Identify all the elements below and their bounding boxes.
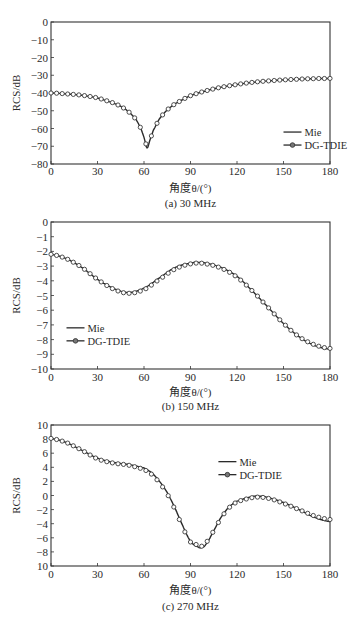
data-marker: [267, 79, 271, 83]
data-marker: [311, 77, 315, 81]
y-tick-label: −2: [36, 504, 48, 516]
x-tick-label: 90: [185, 165, 197, 177]
data-marker: [71, 260, 75, 264]
y-axis-label: RCS/dB: [10, 477, 22, 514]
plot-frame: [51, 222, 330, 369]
y-tick-label: −10: [31, 363, 49, 375]
data-marker: [121, 462, 125, 466]
x-axis-label: 角度θ/(°): [169, 583, 211, 597]
y-tick-label: −20: [31, 52, 49, 64]
data-marker: [278, 78, 282, 82]
y-tick-label: −3: [36, 260, 48, 272]
legend-mie-label: Mie: [88, 323, 105, 334]
rcs-chart-150mhz: 0−1−2−3−4−5−6−7−8−9−100306090120150180RC…: [0, 214, 352, 416]
data-marker: [121, 291, 125, 295]
data-marker: [233, 83, 237, 87]
data-marker: [166, 494, 170, 498]
data-marker: [99, 97, 103, 101]
data-marker: [294, 77, 298, 81]
y-tick-label: −4: [36, 275, 48, 287]
data-marker: [205, 539, 209, 543]
data-marker: [300, 77, 304, 81]
data-marker: [177, 99, 181, 103]
data-marker: [244, 283, 248, 287]
y-tick-label: 2: [43, 475, 49, 487]
data-marker: [155, 478, 159, 482]
y-tick-label: 0: [43, 490, 49, 502]
y-tick-label: 6: [43, 447, 49, 459]
data-marker: [283, 323, 287, 327]
data-marker: [216, 265, 220, 269]
data-marker: [200, 544, 204, 548]
data-marker: [261, 495, 265, 499]
data-marker: [228, 270, 232, 274]
data-marker: [267, 306, 271, 310]
legend-dg-marker: [290, 143, 295, 148]
figure: 0−10−20−30−40−50−60−70−80030609012015018…: [0, 0, 352, 628]
data-marker: [222, 85, 226, 89]
data-marker: [233, 501, 237, 505]
legend: MieDG-TDIE: [284, 127, 348, 151]
data-marker: [194, 261, 198, 265]
data-marker: [105, 99, 109, 103]
data-marker: [127, 463, 131, 467]
data-marker: [149, 283, 153, 287]
data-marker: [183, 530, 187, 534]
data-marker: [322, 517, 326, 521]
data-marker: [267, 496, 271, 500]
data-marker: [322, 76, 326, 80]
data-marker: [239, 82, 243, 86]
data-marker: [328, 346, 332, 350]
x-tick-label: 90: [185, 568, 197, 580]
x-tick-label: 30: [92, 371, 104, 383]
x-tick-label: 90: [185, 371, 197, 383]
data-marker: [306, 77, 310, 81]
data-marker: [55, 437, 59, 441]
data-marker: [155, 121, 159, 125]
x-tick-label: 60: [139, 568, 151, 580]
x-tick-label: 30: [92, 165, 104, 177]
y-tick-label: −80: [31, 158, 49, 170]
y-axis-label: RCS/dB: [10, 277, 22, 314]
chart-caption: (c) 270 MHz: [162, 600, 219, 613]
data-marker: [149, 134, 153, 138]
data-marker: [77, 263, 81, 267]
data-marker: [300, 509, 304, 513]
data-marker: [105, 283, 109, 287]
legend-dg-marker: [225, 472, 230, 477]
data-marker: [183, 96, 187, 100]
data-marker: [222, 267, 226, 271]
legend: MieDG-TDIE: [67, 323, 131, 347]
data-marker: [66, 441, 70, 445]
data-marker: [88, 94, 92, 98]
x-tick-label: 0: [48, 371, 54, 383]
data-marker: [71, 444, 75, 448]
data-marker: [138, 289, 142, 293]
data-marker: [166, 271, 170, 275]
data-marker: [188, 94, 192, 98]
legend-dg-label: DG-TDIE: [305, 140, 348, 151]
plot-frame: [51, 425, 330, 566]
y-tick-label: −60: [31, 123, 49, 135]
data-marker: [228, 505, 232, 509]
x-tick-label: 60: [139, 371, 151, 383]
data-marker: [250, 496, 254, 500]
data-marker: [272, 312, 276, 316]
y-tick-label: −6: [36, 304, 48, 316]
data-marker: [110, 101, 114, 105]
data-marker: [82, 267, 86, 271]
data-marker: [127, 291, 131, 295]
data-marker: [133, 116, 137, 120]
data-marker: [71, 92, 75, 96]
data-marker: [149, 472, 153, 476]
legend-dg-marker: [73, 339, 78, 344]
data-marker: [138, 125, 142, 129]
rcs-chart-270mhz: 1086420−2−4−6−8100306090120150180RCS/dB角…: [0, 416, 352, 628]
x-tick-label: 0: [48, 568, 54, 580]
data-marker: [283, 78, 287, 82]
series-dg-tdie-markers: [49, 76, 332, 146]
data-marker: [188, 262, 192, 266]
data-marker: [77, 447, 81, 451]
data-marker: [177, 517, 181, 521]
data-marker: [317, 515, 321, 519]
